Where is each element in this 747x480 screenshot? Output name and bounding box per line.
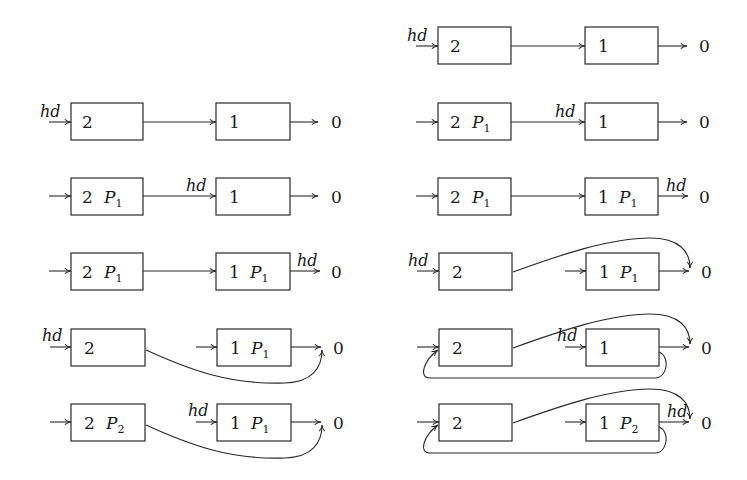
hd-label: hd <box>557 326 578 345</box>
node-2 <box>439 253 512 290</box>
right-row-4: hd 2 1 P1 0 <box>408 238 712 290</box>
node-1 <box>586 329 659 366</box>
node-1 <box>585 103 658 140</box>
node-2 <box>439 329 512 366</box>
node-2-value: 2 <box>452 338 463 358</box>
node-2-value: 2 <box>450 187 461 207</box>
null-label: 0 <box>699 36 710 56</box>
node-1-value: 1 <box>230 413 241 433</box>
node-2 <box>439 404 512 441</box>
hd-label: hd <box>186 176 207 195</box>
node-2-value: 2 <box>452 413 463 433</box>
node-2-value: 2 <box>82 187 93 207</box>
node-1 <box>585 27 658 64</box>
null-label: 0 <box>331 112 342 132</box>
node-1-value: 1 <box>229 187 240 207</box>
right-row-6: 2 1 P2 hd 0 <box>417 389 712 453</box>
null-label: 0 <box>701 338 712 358</box>
right-row-2: 2 P1 hd 1 0 <box>416 102 710 140</box>
null-label: 0 <box>331 187 342 207</box>
null-label: 0 <box>699 112 710 132</box>
node-1-value: 1 <box>229 262 240 282</box>
hd-label: hd <box>407 26 428 45</box>
node-2-value: 2 <box>82 262 93 282</box>
node-1-value: 1 <box>598 187 609 207</box>
null-label: 0 <box>701 413 712 433</box>
null-label: 0 <box>331 262 342 282</box>
node-2 <box>71 329 145 366</box>
node-1-value: 1 <box>598 36 609 56</box>
left-row-1: hd 2 1 0 <box>40 102 342 140</box>
hd-label: hd <box>42 326 63 345</box>
right-row-3: 2 P1 1 P1 hd 0 <box>416 176 710 215</box>
hd-label: hd <box>188 401 209 420</box>
left-row-3: 2 P1 1 P1 hd 0 <box>49 251 342 290</box>
right-row-1: hd 2 1 0 <box>407 26 710 64</box>
hd-label: hd <box>555 102 576 121</box>
node-1 <box>216 178 290 215</box>
node-2-value: 2 <box>84 413 95 433</box>
hd-label: hd <box>297 251 318 270</box>
node-1-value: 1 <box>599 262 610 282</box>
left-row-2: 2 P1 hd 1 0 <box>49 176 342 215</box>
left-row-4: hd 2 1 P1 0 <box>42 326 344 383</box>
null-label: 0 <box>333 413 344 433</box>
node-1 <box>216 103 290 140</box>
hd-label: hd <box>40 102 61 121</box>
node-2-value: 2 <box>450 36 461 56</box>
node-1-value: 1 <box>599 413 610 433</box>
null-label: 0 <box>701 262 712 282</box>
node-1-value: 1 <box>229 112 240 132</box>
left-row-5: 2 P2 hd 1 P1 0 <box>50 401 344 458</box>
node-2-value: 2 <box>82 112 93 132</box>
node-2 <box>438 27 511 64</box>
null-label: 0 <box>333 338 344 358</box>
hd-label: hd <box>666 176 687 195</box>
node-1-value: 1 <box>599 338 610 358</box>
null-label: 0 <box>699 187 710 207</box>
node-2-value: 2 <box>450 112 461 132</box>
right-row-5: 2 hd 1 0 <box>417 314 712 378</box>
node-2-value: 2 <box>452 262 463 282</box>
hd-label: hd <box>408 251 429 270</box>
node-1-value: 1 <box>598 112 609 132</box>
node-2-value: 2 <box>84 338 95 358</box>
node-1-value: 1 <box>230 338 241 358</box>
hd-label: hd <box>667 402 688 421</box>
linked-list-diagram: hd 2 1 0 2 P1 hd 1 0 2 P1 1 P1 hd 0 <box>0 0 747 480</box>
